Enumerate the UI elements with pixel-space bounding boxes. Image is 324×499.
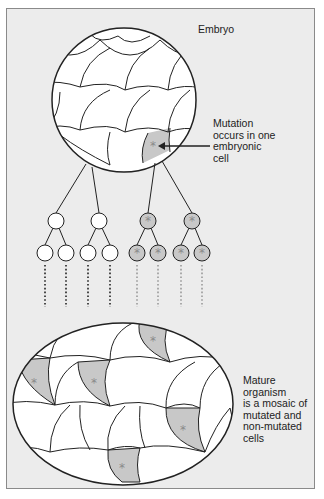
cell-lineage-tree <box>45 161 202 245</box>
embryo-label: Embryo <box>198 24 234 36</box>
mature-label-line-5: non-mutated <box>243 421 321 433</box>
mutation-label: Mutation occurs in one embryonic cell <box>213 118 303 164</box>
embryo <box>40 28 220 172</box>
lineage-dotted-lines <box>45 265 202 307</box>
mature-organism-label: Mature organism is a mosaic of mutated a… <box>243 375 321 444</box>
daughter-cells-level-1 <box>48 213 200 229</box>
mutation-label-line-3: embryonic <box>213 141 303 153</box>
mutation-label-line-1: Mutation <box>213 118 303 130</box>
daughter-cells-level-2 <box>37 245 210 261</box>
mature-label-line-1: Mature <box>243 375 321 387</box>
mature-label-line-6: cells <box>243 433 321 445</box>
mature-label-line-3: is a mosaic of <box>243 398 321 410</box>
mutation-label-line-4: cell <box>213 153 303 165</box>
mature-organism <box>0 320 240 485</box>
